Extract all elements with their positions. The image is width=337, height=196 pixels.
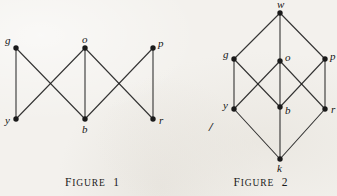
- node-label-g: g: [5, 35, 11, 46]
- node-label-b: b: [82, 124, 88, 135]
- figure-1-graph: [0, 0, 185, 196]
- figure-1-caption: FIGURE 1: [0, 176, 185, 188]
- graph-node-p: [322, 56, 327, 61]
- figure-1: gopybr FIGURE 1: [0, 0, 185, 196]
- stray-pen-mark: /: [209, 120, 213, 133]
- node-label-o: o: [82, 34, 88, 45]
- caption-word: IGURE: [241, 178, 275, 188]
- caption-number: 2: [274, 176, 288, 188]
- node-label-b: b: [285, 105, 291, 116]
- figure-2: wgopybrk / FIGURE 2: [185, 0, 337, 196]
- graph-node-p: [150, 45, 155, 50]
- graph-node-b: [82, 116, 87, 121]
- graph-node-y: [231, 106, 236, 111]
- figure-2-caption: FIGURE 2: [185, 176, 337, 188]
- scanned-page: gopybr FIGURE 1 wgopybrk / FIGURE 2: [0, 0, 337, 196]
- graph-node-r: [322, 106, 327, 111]
- graph-node-g: [231, 56, 236, 61]
- node-label-o: o: [285, 52, 291, 63]
- node-label-w: w: [277, 0, 284, 10]
- caption-number: 1: [106, 176, 120, 188]
- graph-node-g: [13, 45, 18, 50]
- graph-node-o: [277, 58, 282, 63]
- node-label-y: y: [223, 100, 228, 111]
- node-label-p: p: [330, 51, 336, 62]
- figure-2-graph: [185, 0, 337, 196]
- node-label-y: y: [5, 115, 10, 126]
- node-label-p: p: [158, 38, 164, 49]
- graph-node-r: [150, 116, 155, 121]
- graph-edge-o-r: [280, 61, 325, 109]
- graph-node-o: [82, 45, 87, 50]
- graph-edge-r-k: [280, 109, 325, 159]
- node-label-g: g: [223, 49, 229, 60]
- graph-node-w: [277, 10, 282, 15]
- node-label-r: r: [331, 104, 335, 115]
- graph-edge-o-y: [234, 61, 280, 109]
- node-label-r: r: [159, 115, 163, 126]
- graph-node-k: [277, 156, 282, 161]
- graph-node-b: [277, 104, 282, 109]
- graph-edge-p-b: [280, 59, 325, 107]
- graph-node-y: [13, 116, 18, 121]
- caption-initial: F: [233, 176, 240, 188]
- node-label-k: k: [277, 163, 282, 174]
- caption-word: IGURE: [72, 178, 106, 188]
- graph-edge-y-k: [234, 109, 280, 159]
- graph-edge-g-b: [234, 59, 280, 107]
- graph-edge-w-g: [234, 13, 280, 59]
